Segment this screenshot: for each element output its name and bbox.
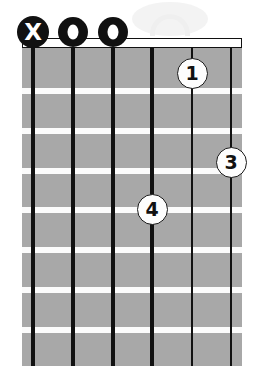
open-marker-string-3 [98, 17, 128, 47]
string-5 [191, 48, 194, 366]
finger-marker-3: 3 [216, 147, 247, 178]
finger-marker-4: 4 [137, 194, 168, 225]
open-marker-string-2 [58, 17, 88, 47]
string-3 [111, 48, 115, 366]
fret-line-1 [22, 88, 242, 94]
fret-line-4 [22, 207, 242, 213]
string-6 [230, 48, 232, 366]
string-2 [71, 48, 75, 366]
mute-marker-string-1: X [17, 16, 49, 48]
fret-line-6 [22, 287, 242, 293]
fret-line-5 [22, 247, 242, 253]
fret-line-2 [22, 128, 242, 134]
nut [22, 38, 242, 48]
string-1 [31, 48, 35, 366]
fret-line-7 [22, 327, 242, 333]
finger-marker-1: 1 [177, 58, 208, 89]
chord-diagram: X 134 [0, 0, 254, 386]
watermark [132, 2, 208, 36]
fret-line-3 [22, 168, 242, 174]
